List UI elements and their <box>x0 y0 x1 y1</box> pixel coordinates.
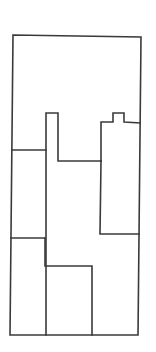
floor-plan-canvas <box>0 0 156 352</box>
interior-walls <box>11 113 140 335</box>
wall-right-block <box>101 113 140 161</box>
outer-boundary <box>10 35 141 335</box>
wall-right-block-left-wall <box>100 161 139 234</box>
wall-lower-step <box>45 238 92 335</box>
floor-plan-diagram <box>0 0 156 352</box>
